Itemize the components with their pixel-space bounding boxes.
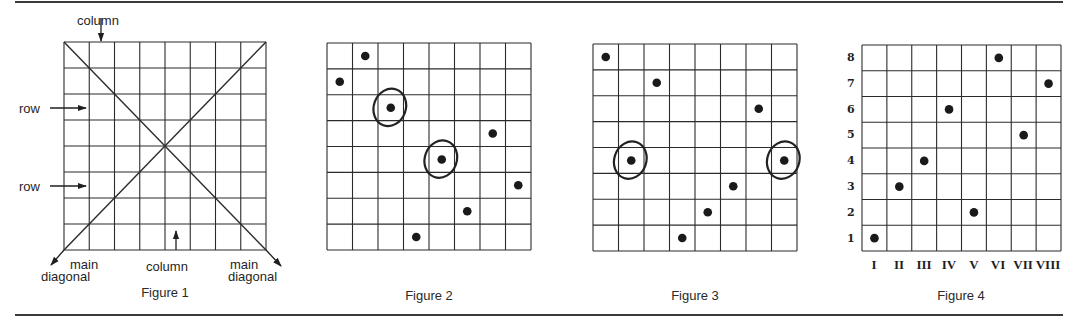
figure-2-caption: Figure 2 bbox=[379, 289, 479, 303]
queen-dot-icon bbox=[945, 105, 954, 114]
column-numeral-7: VII bbox=[1013, 258, 1033, 271]
row-number-1: 1 bbox=[847, 233, 855, 244]
figure-2-grid bbox=[327, 43, 531, 250]
figure-1-grid bbox=[64, 42, 266, 250]
main-diagonal-left-arrow-icon bbox=[51, 250, 64, 265]
figure-4-grid bbox=[862, 45, 1061, 251]
column-numeral-6: VI bbox=[991, 258, 1005, 271]
row-number-6: 6 bbox=[847, 104, 855, 115]
queen-dot-icon bbox=[601, 53, 610, 62]
figures-canvas bbox=[0, 0, 1079, 328]
queen-dot-icon bbox=[361, 52, 370, 61]
queen-dot-icon bbox=[754, 104, 763, 113]
queen-dot-icon bbox=[729, 182, 738, 191]
figure-1-caption: Figure 1 bbox=[115, 286, 215, 300]
row-top-label: row bbox=[19, 102, 40, 115]
column-numeral-3: III bbox=[916, 258, 931, 271]
figure-3-grid bbox=[593, 44, 805, 251]
queen-dot-icon bbox=[463, 207, 472, 216]
queen-dot-icon bbox=[970, 208, 979, 217]
queen-dot-icon bbox=[1019, 131, 1028, 140]
main-diagonal-right-label-2: diagonal bbox=[228, 270, 277, 283]
queen-dot-icon bbox=[678, 234, 687, 243]
queen-dot-icon bbox=[1044, 79, 1053, 88]
row-number-4: 4 bbox=[847, 155, 855, 166]
row-number-8: 8 bbox=[847, 52, 855, 63]
figure-3-caption: Figure 3 bbox=[645, 289, 745, 303]
column-numeral-8: VIII bbox=[1036, 258, 1061, 271]
queen-dot-icon bbox=[780, 156, 789, 165]
column-numeral-1: I bbox=[871, 258, 876, 271]
queen-dot-icon bbox=[703, 208, 712, 217]
column-bottom-label: column bbox=[146, 260, 188, 273]
queen-dot-icon bbox=[652, 79, 661, 88]
queen-dot-icon bbox=[995, 54, 1004, 63]
queen-dot-icon bbox=[920, 157, 929, 166]
row-number-3: 3 bbox=[847, 181, 855, 192]
column-numeral-4: IV bbox=[942, 258, 956, 271]
main-diagonal-right-arrow-icon bbox=[266, 250, 281, 266]
queen-dot-icon bbox=[514, 181, 523, 190]
row-number-7: 7 bbox=[847, 78, 855, 89]
column-numeral-5: V bbox=[969, 258, 978, 271]
column-numeral-2: II bbox=[894, 258, 904, 271]
row-bottom-label: row bbox=[19, 180, 40, 193]
row-number-5: 5 bbox=[847, 129, 855, 140]
queen-dot-icon bbox=[335, 78, 344, 87]
queen-dot-icon bbox=[488, 129, 497, 138]
column-top-label: column bbox=[77, 14, 119, 27]
queen-dot-icon bbox=[870, 234, 879, 243]
figure-4-caption: Figure 4 bbox=[911, 289, 1011, 303]
queen-dot-icon bbox=[895, 182, 904, 191]
row-number-2: 2 bbox=[847, 207, 855, 218]
queen-dot-icon bbox=[412, 233, 421, 242]
queen-dot-icon bbox=[386, 103, 395, 112]
queen-dot-icon bbox=[627, 156, 636, 165]
queen-dot-icon bbox=[437, 155, 446, 164]
main-diagonal-left-label-2: diagonal bbox=[41, 270, 90, 283]
